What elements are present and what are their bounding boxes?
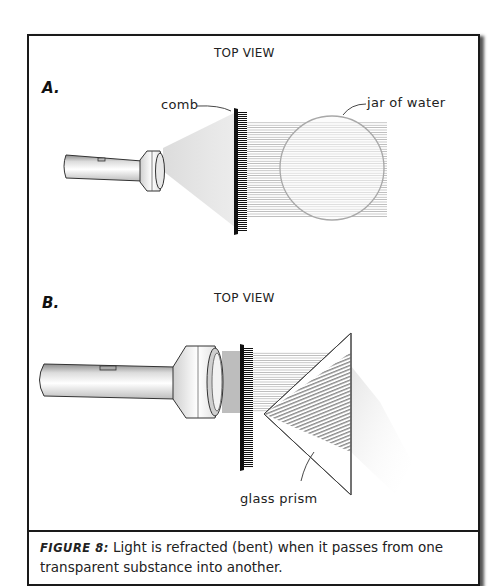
- panel-a-illustration: [64, 104, 387, 235]
- flashlight-b: [40, 346, 224, 418]
- light-beam-a: [163, 112, 236, 228]
- figure-number: FIGURE 8:: [40, 541, 109, 555]
- light-beam-b: [222, 351, 242, 413]
- comb-a: [234, 108, 247, 235]
- flashlight-a: [64, 151, 165, 191]
- refracted-exit-light: [351, 366, 412, 494]
- jar-of-water: [280, 116, 384, 220]
- panel-a-letter: A.: [42, 79, 60, 97]
- comb-b: [240, 344, 253, 471]
- panel-b-view-title: TOP VIEW: [214, 291, 275, 305]
- jar-of-water-label: jar of water: [367, 95, 445, 110]
- panel-a-view-title: TOP VIEW: [214, 46, 275, 60]
- panel-b-illustration: [40, 333, 413, 495]
- comb-leader-line: [197, 106, 231, 111]
- glass-prism-label: glass prism: [240, 491, 317, 506]
- comb-label: comb: [161, 97, 198, 112]
- jar-leader-line: [343, 104, 366, 115]
- figure-caption: FIGURE 8: Light is refracted (bent) when…: [40, 538, 460, 577]
- panel-b-letter: B.: [42, 294, 59, 312]
